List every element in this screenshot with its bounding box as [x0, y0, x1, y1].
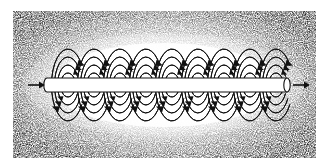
wire-right-cap: [284, 78, 290, 92]
figure-root: [0, 0, 329, 168]
magnetic-field-diagram: [0, 0, 329, 168]
wire-body: [44, 78, 290, 92]
current-carrying-wire: [44, 78, 290, 92]
